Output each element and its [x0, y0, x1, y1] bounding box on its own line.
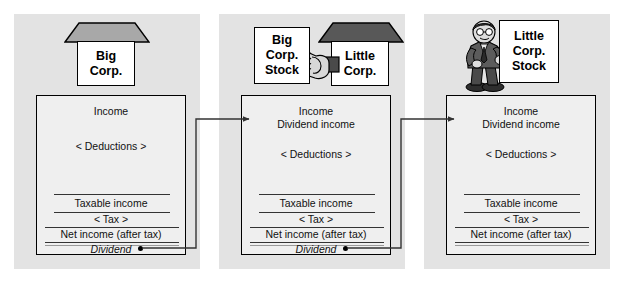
certificate-little-corp-stock: Little Corp. Stock: [499, 20, 559, 83]
house-label-line-1: Big: [96, 49, 116, 64]
cert-line-1: Big: [272, 33, 292, 48]
stmt-taxable-income: Taxable income: [242, 197, 390, 209]
stmt-dividend-income: Dividend income: [447, 118, 595, 130]
stmt-taxable-income: Taxable income: [447, 197, 595, 209]
certificate-big-corp-stock: Big Corp. Stock: [254, 27, 310, 84]
house-label-line-2: Corp.: [344, 64, 377, 79]
stmt-rule-above-taxable: [259, 194, 375, 195]
stmt-deductions: < Deductions >: [242, 148, 390, 160]
cert-line-3: Stock: [265, 63, 299, 78]
stmt-net-income: Net income (after tax): [37, 228, 185, 240]
dividend-bullet: [138, 246, 143, 251]
dividend-bullet: [343, 246, 348, 251]
stmt-net-income: Net income (after tax): [447, 228, 595, 240]
stmt-income: Income: [37, 105, 185, 117]
stmt-deductions: < Deductions >: [37, 140, 185, 152]
stmt-deductions: < Deductions >: [447, 148, 595, 160]
income-statement-big-corp: Income < Deductions > Taxable income < T…: [36, 95, 186, 255]
house-icon-big-corp: Big Corp.: [64, 22, 150, 88]
income-statement-shareholder: Income Dividend income < Deductions > Ta…: [446, 95, 596, 255]
stmt-tax: < Tax >: [447, 213, 595, 225]
stmt-income: Income: [447, 105, 595, 117]
stmt-net-income: Net income (after tax): [242, 228, 390, 240]
cert-line-2: Corp.: [513, 44, 546, 59]
house-roof-icon: [64, 22, 150, 43]
cert-line-2: Corp.: [266, 48, 299, 63]
cert-line-1: Little: [514, 29, 544, 44]
house-label-line-2: Corp.: [90, 64, 123, 79]
stmt-dividend: Dividend: [37, 243, 185, 255]
stmt-dividend: Dividend: [242, 243, 390, 255]
house-label-line-1: Little: [345, 49, 375, 64]
stmt-rule-above-taxable: [464, 194, 580, 195]
income-statement-little-corp: Income Dividend income < Deductions > Ta…: [241, 95, 391, 255]
diagram-canvas: Big Corp. Income < Deductions > Taxable …: [0, 0, 619, 290]
stmt-rule-below-net-1: [455, 242, 589, 243]
stmt-rule-below-net-2: [455, 245, 589, 246]
stmt-taxable-income: Taxable income: [37, 197, 185, 209]
stmt-tax: < Tax >: [37, 213, 185, 225]
house-label-big-corp: Big Corp.: [77, 41, 135, 86]
stmt-rule-above-taxable: [54, 194, 170, 195]
stmt-dividend-income: Dividend income: [242, 118, 390, 130]
stmt-income: Income: [242, 105, 390, 117]
cert-line-3: Stock: [512, 59, 546, 74]
stmt-tax: < Tax >: [242, 213, 390, 225]
